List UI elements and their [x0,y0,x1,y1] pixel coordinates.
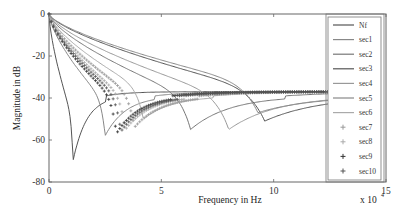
legend-label: sec3 [359,64,373,73]
y-tick-label: 0 [40,9,45,19]
legend-label: sec5 [359,94,373,103]
legend-label: sec9 [359,152,373,161]
x-tick-label: 10 [269,186,279,196]
x-multiplier: x 10 4 [360,192,384,205]
x-axis-label: Frequency in Hz [198,195,261,205]
y-tick-label: -60 [32,135,45,145]
legend-label: Nf [359,21,367,30]
y-tick-label: -40 [32,93,45,103]
legend-label: sec8 [359,137,373,146]
legend: Nfsec1sec2sec3sec4sec5sec6sec7sec8sec9se… [326,14,384,182]
legend-label: sec7 [359,123,373,132]
x-multiplier-exponent: 4 [381,192,384,198]
legend-label: sec2 [359,50,373,59]
frequency-response-chart: 0-20-40-60-80 051015 Frequency in Hz Mag… [0,0,406,221]
legend-label: sec1 [359,35,373,44]
legend-label: sec4 [359,79,373,88]
legend-label: sec10 [359,167,376,176]
x-multiplier-base: x 10 [360,195,377,205]
y-axis-label: Magnitude in dB [12,66,22,130]
x-tick-label: 5 [159,186,164,196]
legend-label: sec6 [359,108,373,117]
y-tick-label: -80 [32,177,45,187]
y-tick-label: -20 [32,51,45,61]
x-tick-label: 0 [47,186,52,196]
